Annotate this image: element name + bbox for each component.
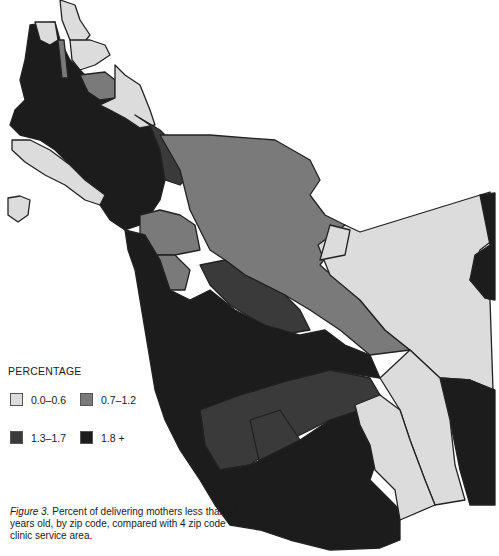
legend-item-medium: 0.7–1.2	[80, 393, 136, 406]
legend-label: 0.0–0.6	[31, 394, 66, 406]
legend-title: PERCENTAGE	[8, 365, 198, 377]
legend-item-light: 0.0–0.6	[10, 393, 66, 406]
legend-swatch-darkest	[80, 431, 93, 444]
map-legend: PERCENTAGE 0.0–0.6 0.7–1.2 1.3–1.7 1.8 +	[8, 365, 198, 377]
legend-item-darkest: 1.8 +	[80, 431, 125, 444]
region-light-north-3	[70, 40, 110, 70]
region-light-north-1	[60, 0, 90, 45]
region-light-island	[8, 196, 30, 222]
legend-label: 1.8 +	[101, 432, 125, 444]
legend-label: 0.7–1.2	[101, 394, 136, 406]
legend-swatch-light	[10, 393, 23, 406]
figure-caption: Figure 3. Percent of delivering mothers …	[10, 506, 250, 542]
legend-item-dark: 1.3–1.7	[10, 431, 66, 444]
choropleth-map	[0, 0, 499, 556]
figure-label: Figure 3.	[10, 506, 49, 517]
legend-swatch-medium	[80, 393, 93, 406]
legend-label: 1.3–1.7	[31, 432, 66, 444]
legend-swatch-dark	[10, 431, 23, 444]
